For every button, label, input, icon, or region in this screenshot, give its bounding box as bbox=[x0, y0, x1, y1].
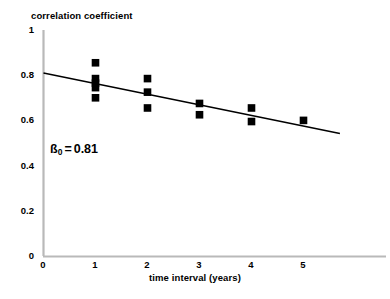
data-point bbox=[144, 88, 152, 96]
regression-line bbox=[44, 73, 340, 134]
x-tick-label-3: 3 bbox=[187, 259, 211, 270]
y-tick-label-0.4: 0.4 bbox=[0, 160, 34, 171]
data-point bbox=[300, 117, 308, 125]
x-axis-title: time interval (years) bbox=[0, 272, 390, 283]
data-point bbox=[92, 59, 100, 67]
data-point bbox=[196, 100, 204, 108]
data-point bbox=[248, 118, 256, 126]
y-tick-label-0: 0 bbox=[0, 250, 34, 261]
y-tick-label-0.6: 0.6 bbox=[0, 114, 34, 125]
chart-figure: correlation coefficient time interval (y… bbox=[0, 0, 390, 299]
x-tick-label-0: 0 bbox=[31, 259, 55, 270]
y-tick-label-0.8: 0.8 bbox=[0, 69, 34, 80]
y-axis-title: correlation coefficient bbox=[31, 10, 133, 21]
data-point-group bbox=[92, 59, 308, 125]
data-point bbox=[248, 104, 256, 112]
equals-sign: = bbox=[62, 142, 73, 156]
data-point bbox=[144, 104, 152, 112]
x-tick-label-5: 5 bbox=[291, 259, 315, 270]
x-tick-label-1: 1 bbox=[83, 259, 107, 270]
beta-symbol: ß bbox=[50, 142, 58, 156]
x-tick-label-2: 2 bbox=[135, 259, 159, 270]
beta0-annotation: ß0=0.81 bbox=[50, 142, 98, 157]
data-point bbox=[196, 111, 204, 119]
x-tick-label-4: 4 bbox=[239, 259, 263, 270]
beta0-value: 0.81 bbox=[74, 142, 98, 156]
data-point bbox=[92, 94, 100, 102]
data-point bbox=[92, 84, 100, 92]
y-tick-label-1: 1 bbox=[0, 24, 34, 35]
y-tick-label-0.2: 0.2 bbox=[0, 205, 34, 216]
data-point bbox=[144, 75, 152, 83]
